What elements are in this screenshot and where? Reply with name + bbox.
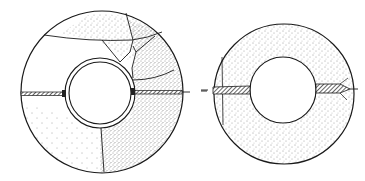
right-ring — [201, 20, 360, 170]
left-wedge-hatch — [213, 86, 250, 94]
pipe-jacket-inner — [69, 62, 131, 124]
left-joint-hatch — [21, 92, 65, 96]
right-inner-circle — [250, 57, 316, 123]
left-joint-clip — [62, 90, 66, 97]
right-joint-hatch — [135, 91, 182, 95]
right-joint-clip — [131, 88, 135, 95]
left-ring — [20, 11, 190, 180]
figure-canvas — [0, 0, 365, 181]
